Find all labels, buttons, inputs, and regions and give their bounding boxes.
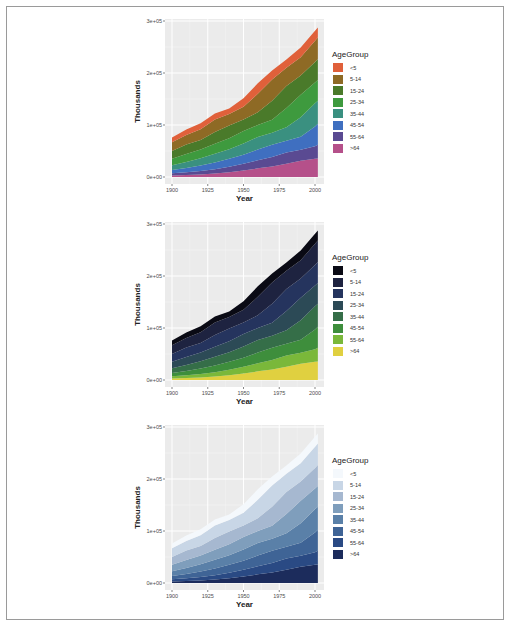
y-tick-label: 2e+05 (147, 273, 162, 279)
stacked-area-chart-blues: 0e+001e+052e+053e+0519001925195019752000… (0, 406, 510, 609)
legend-swatch (332, 537, 344, 548)
legend-item: 45-54 (332, 323, 368, 335)
x-tick-label: 1950 (237, 187, 249, 193)
plot-area: 0e+001e+052e+053e+0519001925195019752000… (0, 406, 510, 609)
y-tick-label: 0e+00 (147, 377, 162, 383)
legend-swatch (332, 311, 344, 322)
legend-swatch (332, 346, 344, 357)
x-axis-title: Year (236, 194, 253, 203)
legend-label: >64 (350, 145, 359, 151)
y-axis-title: Thousands (133, 283, 142, 326)
legend-item: <5 (332, 265, 368, 277)
x-tick-label: 1950 (237, 390, 249, 396)
legend-label: 25-34 (350, 505, 364, 511)
x-axis-title: Year (236, 397, 253, 406)
y-axis-title: Thousands (133, 80, 142, 123)
legend-swatch (332, 277, 344, 288)
y-tick-label: 3e+05 (147, 18, 162, 24)
legend-item: 55-64 (332, 334, 368, 346)
y-tick-label: 2e+05 (147, 70, 162, 76)
x-tick-label: 1950 (237, 593, 249, 599)
legend-label: 35-44 (350, 111, 364, 117)
legend-swatch (332, 491, 344, 502)
legend-swatch (332, 300, 344, 311)
legend: AgeGroup <55-1415-2425-3435-4445-5455-64… (332, 456, 368, 560)
legend-item: 25-34 (332, 300, 368, 312)
legend-label: >64 (350, 348, 359, 354)
legend-label: 15-24 (350, 291, 364, 297)
legend-item: <5 (332, 62, 368, 74)
legend-item: >64 (332, 143, 368, 155)
legend-label: <5 (350, 65, 356, 71)
y-tick-label: 1e+05 (147, 325, 162, 331)
legend-swatch (332, 62, 344, 73)
legend-item: 55-64 (332, 537, 368, 549)
legend-label: 55-64 (350, 134, 364, 140)
y-tick-label: 0e+00 (147, 174, 162, 180)
legend-item: <5 (332, 468, 368, 480)
legend-label: 5-14 (350, 76, 361, 82)
legend-item: 25-34 (332, 503, 368, 515)
legend-swatch (332, 323, 344, 334)
legend-swatch (332, 74, 344, 85)
legend-item: 35-44 (332, 108, 368, 120)
legend-swatch (332, 480, 344, 491)
legend-label: 5-14 (350, 279, 361, 285)
x-tick-label: 2000 (309, 187, 321, 193)
legend-title: AgeGroup (332, 456, 368, 465)
x-tick-label: 1975 (273, 187, 285, 193)
legend-swatch (332, 265, 344, 276)
x-tick-label: 1925 (202, 390, 214, 396)
legend-item: 45-54 (332, 526, 368, 538)
legend: AgeGroup <55-1415-2425-3435-4445-5455-64… (332, 50, 368, 154)
legend-swatch (332, 288, 344, 299)
legend-swatch (332, 468, 344, 479)
plot-area: 0e+001e+052e+053e+0519001925195019752000… (0, 203, 510, 406)
x-tick-label: 1925 (202, 593, 214, 599)
legend-item: 35-44 (332, 514, 368, 526)
legend-label: 15-24 (350, 494, 364, 500)
legend-swatch (332, 334, 344, 345)
y-axis-title: Thousands (133, 486, 142, 529)
legend-label: 55-64 (350, 540, 364, 546)
legend-label: 45-54 (350, 325, 364, 331)
x-tick-label: 2000 (309, 593, 321, 599)
legend-item: 15-24 (332, 288, 368, 300)
legend-item: >64 (332, 549, 368, 561)
legend-swatch (332, 131, 344, 142)
legend: AgeGroup <55-1415-2425-3435-4445-5455-64… (332, 253, 368, 357)
x-axis-title: Year (236, 600, 253, 609)
legend-item: 45-54 (332, 120, 368, 132)
x-tick-label: 1900 (166, 187, 178, 193)
legend-title: AgeGroup (332, 253, 368, 262)
legend-item: 55-64 (332, 131, 368, 143)
legend-item: 15-24 (332, 85, 368, 97)
y-tick-label: 3e+05 (147, 221, 162, 227)
legend-item: 5-14 (332, 480, 368, 492)
legend-swatch (332, 549, 344, 560)
legend-swatch (332, 97, 344, 108)
legend-label: 45-54 (350, 122, 364, 128)
legend-label: >64 (350, 551, 359, 557)
legend-title: AgeGroup (332, 50, 368, 59)
legend-label: 25-34 (350, 302, 364, 308)
x-tick-label: 1900 (166, 390, 178, 396)
legend-label: 15-24 (350, 88, 364, 94)
legend-swatch (332, 143, 344, 154)
legend-label: 35-44 (350, 314, 364, 320)
legend-swatch (332, 526, 344, 537)
legend-item: 5-14 (332, 74, 368, 86)
y-tick-label: 1e+05 (147, 528, 162, 534)
x-tick-label: 1975 (273, 390, 285, 396)
legend-item: 35-44 (332, 311, 368, 323)
legend-label: <5 (350, 471, 356, 477)
stacked-area-chart-hue: 0e+001e+052e+053e+0519001925195019752000… (0, 0, 510, 203)
stacked-area-chart-viridis: 0e+001e+052e+053e+0519001925195019752000… (0, 203, 510, 406)
legend-swatch (332, 108, 344, 119)
y-tick-label: 2e+05 (147, 476, 162, 482)
x-tick-label: 1925 (202, 187, 214, 193)
legend-swatch (332, 85, 344, 96)
legend-label: 35-44 (350, 517, 364, 523)
legend-label: 25-34 (350, 99, 364, 105)
legend-item: 15-24 (332, 491, 368, 503)
